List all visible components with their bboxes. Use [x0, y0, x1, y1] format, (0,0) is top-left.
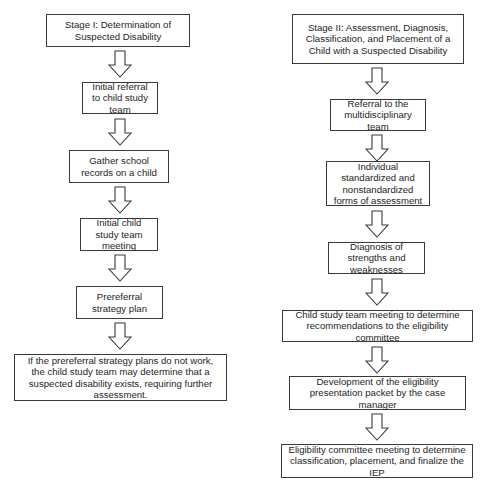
- down-arrow-icon: [108, 118, 132, 146]
- down-arrow-icon: [365, 346, 389, 374]
- down-arrow-icon: [108, 322, 132, 350]
- down-arrow-icon: [365, 210, 389, 238]
- stage2-step-3: Diagnosis of strengths and weaknesses: [333, 241, 420, 275]
- stage1-step-4-box: Prereferral strategy plan: [76, 286, 163, 319]
- stage2-title-box: Stage II: Assessment, Diagnosis, Classif…: [292, 14, 464, 64]
- stage2-step-5: Development of the eligibility presentat…: [294, 376, 461, 410]
- down-arrow-icon: [365, 67, 389, 95]
- stage1-step-2: Gather school records on a child: [74, 155, 164, 178]
- down-arrow-icon: [365, 278, 389, 306]
- stage1-step-2-box: Gather school records on a child: [69, 150, 169, 183]
- stage1-step-1: Initial referral to child study team: [87, 81, 153, 115]
- stage1-step-5-box: If the prereferral strategy plans do not…: [14, 354, 227, 401]
- stage2-step-2-box: Individual standardized and nonstandardi…: [326, 161, 430, 206]
- stage1-step-3-box: Initial child study team meeting: [80, 218, 158, 251]
- stage2-step-3-box: Diagnosis of strengths and weaknesses: [328, 242, 425, 274]
- stage2-step-4-box: Child study team meeting to determine re…: [282, 310, 473, 342]
- down-arrow-icon: [108, 186, 132, 214]
- down-arrow-icon: [108, 50, 132, 78]
- stage1-step-3: Initial child study team meeting: [85, 217, 153, 251]
- stage2-step-1-box: Referral to the multidisciplinary team: [330, 99, 426, 131]
- stage2-step-6: Eligibility committee meeting to determi…: [286, 444, 468, 478]
- stage2-step-6-box: Eligibility committee meeting to determi…: [281, 444, 473, 478]
- down-arrow-icon: [365, 413, 389, 441]
- stage2-step-4: Child study team meeting to determine re…: [287, 309, 468, 343]
- stage1-title-box: Stage I: Determination of Suspected Disa…: [46, 14, 190, 47]
- stage2-title: Stage II: Assessment, Diagnosis, Classif…: [297, 22, 459, 56]
- stage2-step-1: Referral to the multidisciplinary team: [335, 98, 421, 132]
- stage2-step-2: Individual standardized and nonstandardi…: [331, 161, 425, 207]
- stage1-step-5: If the prereferral strategy plans do not…: [23, 355, 218, 401]
- stage1-title: Stage I: Determination of Suspected Disa…: [51, 19, 185, 42]
- stage2-step-5-box: Development of the eligibility presentat…: [289, 376, 466, 410]
- down-arrow-icon: [108, 254, 132, 282]
- stage1-step-1-box: Initial referral to child study team: [82, 82, 158, 114]
- down-arrow-icon: [365, 134, 389, 162]
- stage1-step-4: Prereferral strategy plan: [81, 291, 158, 314]
